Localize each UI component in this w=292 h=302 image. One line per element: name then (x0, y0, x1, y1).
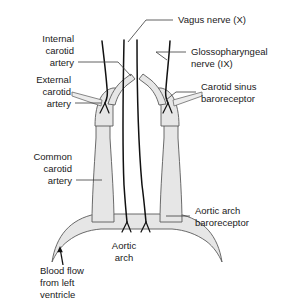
label-external-carotid-artery: External carotid artery (36, 74, 71, 109)
right-external-carotid-vessel (173, 92, 202, 106)
right-vagus-nerve (137, 40, 146, 222)
label-aortic-arch-line1: Aortic (112, 240, 137, 251)
leader-glossopharyngeal-nerve (156, 52, 186, 60)
label-external-carotid-artery-line1: External (36, 74, 71, 85)
left-external-carotid-vessel (72, 92, 102, 106)
label-aortic-arch-baroreceptor: Aortic arch baroreceptor (195, 205, 249, 228)
label-carotid-sinus-baroreceptor: Carotid sinus baroreceptor (201, 81, 257, 104)
label-glossopharyngeal-nerve-line2: nerve (IX) (191, 58, 233, 69)
label-carotid-sinus-baroreceptor-line2: baroreceptor (201, 93, 255, 104)
label-carotid-sinus-baroreceptor-line1: Carotid sinus (201, 81, 257, 92)
label-blood-flow-line1: Blood flow (40, 265, 84, 276)
label-internal-carotid-artery: Internal carotid artery (42, 33, 74, 68)
label-blood-flow: Blood flow from left ventricle (40, 265, 84, 300)
left-vagus-nerve (123, 40, 127, 222)
leader-vagus-nerve (128, 20, 173, 42)
label-aortic-arch-line2: arch (115, 252, 133, 263)
left-common-carotid-vessel (92, 120, 114, 222)
label-vagus-nerve-line1: Vagus nerve (X) (178, 14, 246, 25)
right-common-carotid-vessel (160, 120, 182, 222)
label-common-carotid-artery-line2: carotid (43, 163, 72, 174)
label-internal-carotid-artery-line3: artery (50, 57, 75, 68)
anatomy-diagram: Internal carotid artery External carotid… (0, 0, 292, 302)
label-internal-carotid-artery-line1: Internal (42, 33, 74, 44)
label-internal-carotid-artery-line2: carotid (45, 45, 74, 56)
label-aortic-arch-baroreceptor-line2: baroreceptor (195, 217, 249, 228)
label-vagus-nerve: Vagus nerve (X) (178, 14, 246, 25)
label-aortic-arch-baroreceptor-line1: Aortic arch (195, 205, 240, 216)
label-common-carotid-artery-line3: artery (48, 175, 73, 186)
label-aortic-arch: Aortic arch (112, 240, 137, 263)
label-common-carotid-artery: Common carotid artery (33, 151, 72, 186)
label-common-carotid-artery-line1: Common (33, 151, 72, 162)
diagram-canvas: Internal carotid artery External carotid… (0, 0, 292, 302)
label-glossopharyngeal-nerve: Glossopharyngeal nerve (IX) (191, 46, 268, 69)
label-external-carotid-artery-line3: artery (47, 98, 72, 109)
label-external-carotid-artery-line2: carotid (42, 86, 71, 97)
label-blood-flow-line3: ventricle (40, 289, 75, 300)
label-glossopharyngeal-nerve-line1: Glossopharyngeal (191, 46, 268, 57)
label-blood-flow-line2: from left (40, 277, 75, 288)
